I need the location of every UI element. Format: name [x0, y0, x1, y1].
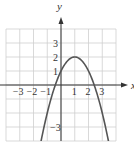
x-tick-label: 1 [72, 86, 77, 97]
x-tick-label: −1 [40, 86, 51, 97]
y-tick-label: 2 [53, 52, 58, 63]
parabola-graph: −3−2−1123321−3 y x [0, 0, 134, 148]
x-tick-label: 3 [99, 86, 104, 97]
y-tick-label: 3 [53, 38, 58, 49]
x-tick-label: −3 [13, 86, 24, 97]
y-axis-label: y [56, 0, 62, 12]
x-tick-label: −2 [27, 86, 38, 97]
x-axis-label: x [130, 79, 134, 91]
y-tick-label: 1 [53, 66, 58, 77]
axes [0, 17, 128, 141]
x-tick-label: 2 [86, 86, 91, 97]
y-tick-label: −3 [50, 122, 61, 133]
